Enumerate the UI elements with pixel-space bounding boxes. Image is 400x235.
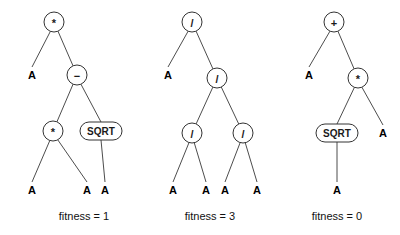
tree-edge [196,87,213,124]
node-operator-label: * [356,73,361,85]
edges-layer [32,31,383,182]
tree-edge [337,87,354,124]
terminal-label: A [253,184,261,196]
function-node: SQRT [316,124,358,142]
function-node: / [182,123,202,143]
terminal-label: A [333,184,341,196]
node-operator-label: / [190,17,193,29]
function-node: / [207,68,227,88]
function-node: * [348,68,368,88]
tree-edge [309,31,330,67]
function-node: / [233,123,253,143]
node-operator-label: * [52,17,57,29]
terminal-label: A [221,184,229,196]
terminal-label: A [28,184,36,196]
tree-edge [32,140,50,182]
tree-edge [221,87,238,124]
genetic-program-tree-figure: *A−*SQRTAAA/A///AAAA+A*SQRTAA fitness = … [0,0,400,235]
terminal-node: A [253,184,261,196]
terminal-label: A [83,184,91,196]
tree-edge [194,143,206,182]
function-node: SQRT [80,122,122,140]
node-operator-label: * [51,126,56,138]
tree-fitness-caption: fitness = 3 [185,210,235,222]
terminal-label: A [164,69,172,81]
node-operator-label: − [74,70,80,82]
tree-fitness-caption: fitness = 1 [59,210,109,222]
terminal-node: A [83,184,91,196]
terminal-node: A [101,184,109,196]
function-node: + [324,12,344,32]
captions-layer: fitness = 1fitness = 3fitness = 0 [59,210,362,222]
tree-edge [58,140,87,182]
terminal-label: A [379,127,387,139]
terminal-label: A [169,184,177,196]
function-node: / [182,12,202,32]
terminal-label: A [202,184,210,196]
tree-edge [196,31,213,69]
node-function-label: SQRT [323,128,351,139]
terminal-node: A [379,127,387,139]
tree-fitness-caption: fitness = 0 [312,210,362,222]
tree-edge [245,143,257,182]
terminal-node: A [333,184,341,196]
function-node: * [44,12,64,32]
function-node: − [67,65,87,85]
node-operator-label: / [241,128,244,140]
node-operator-label: / [215,73,218,85]
tree-edge [225,143,240,182]
tree-edge [173,143,189,182]
node-operator-label: / [190,128,193,140]
node-operator-label: + [331,17,337,29]
tree-edge [168,31,188,67]
function-node: * [43,121,63,141]
tree-edge [338,31,354,69]
terminal-node: A [169,184,177,196]
tree-diagram-canvas: *A−*SQRTAAA/A///AAAA+A*SQRTAA fitness = … [0,0,400,235]
tree-edge [32,31,50,67]
terminal-label: A [305,69,313,81]
nodes-layer: *A−*SQRTAAA/A///AAAA+A*SQRTAA [28,12,387,196]
terminal-node: A [28,184,36,196]
tree-edge [101,140,105,182]
tree-edge [81,84,101,122]
tree-edge [57,84,73,122]
terminal-node: A [305,69,313,81]
terminal-label: A [101,184,109,196]
tree-edge [58,31,73,66]
tree-edge [362,87,383,125]
terminal-label: A [28,69,36,81]
terminal-node: A [202,184,210,196]
terminal-node: A [221,184,229,196]
node-function-label: SQRT [87,126,115,137]
terminal-node: A [28,69,36,81]
terminal-node: A [164,69,172,81]
